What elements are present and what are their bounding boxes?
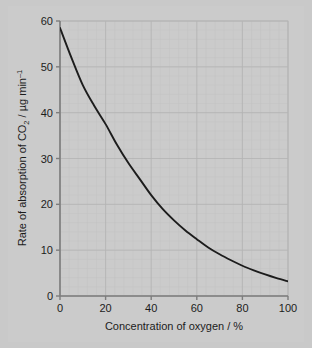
y-axis-tick-labels: 0102030405060 [41, 15, 53, 302]
x-tick-label: 80 [236, 302, 248, 314]
y-tick-label: 20 [41, 198, 53, 210]
chart-figure: 0102030405060 020406080100 Concentration… [0, 0, 312, 348]
x-tick-label: 40 [145, 302, 157, 314]
x-axis-tick-labels: 020406080100 [57, 302, 297, 314]
y-tick-label: 50 [41, 61, 53, 73]
x-tick-label: 20 [99, 302, 111, 314]
x-tick-label: 100 [279, 302, 297, 314]
x-axis-title: Concentration of oxygen / % [105, 320, 243, 332]
y-axis-title-lead: Rate of absorption of CO [16, 124, 28, 246]
y-tick-label: 30 [41, 153, 53, 165]
x-tick-label: 60 [191, 302, 203, 314]
chart-svg: 0102030405060 020406080100 Concentration… [0, 0, 312, 348]
y-tick-label: 40 [41, 107, 53, 119]
y-tick-label: 10 [41, 244, 53, 256]
y-tick-label: 0 [47, 290, 53, 302]
x-tick-label: 0 [57, 302, 63, 314]
y-axis-title-superscript: –1 [15, 70, 24, 78]
y-axis-title: Rate of absorption of CO2 / µg min–1 [15, 70, 30, 247]
y-axis-title-mid: / µg min [16, 78, 28, 120]
y-tick-label: 60 [41, 15, 53, 27]
